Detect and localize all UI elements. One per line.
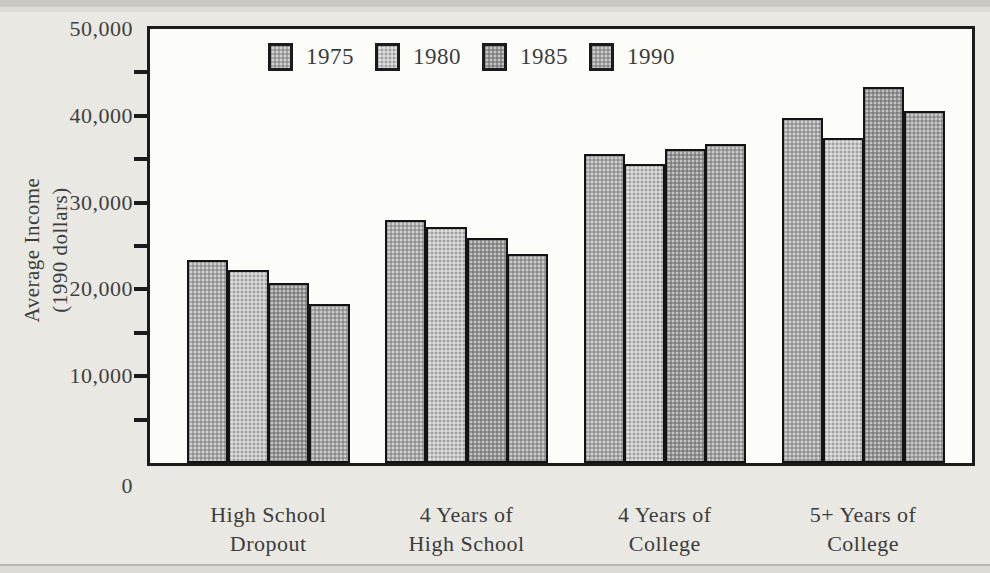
- x-category-label-4: 5+ Years ofCollege: [753, 500, 973, 558]
- legend-item-1975: 1975: [268, 43, 354, 71]
- bar-1975-category-3: [584, 154, 625, 463]
- bar-1980-category-3: [624, 164, 665, 463]
- legend-swatch-1990: [589, 43, 614, 71]
- y-tick-label-10000: 10,000: [0, 363, 133, 389]
- bar-1975-category-1: [187, 260, 228, 463]
- bar-1985-category-3: [665, 149, 706, 463]
- y-axis-title: Average Income (1990 dollars): [18, 140, 74, 360]
- x-category-label-1: High SchoolDropout: [158, 500, 378, 558]
- x-category-label-3-line-2: College: [555, 529, 775, 558]
- y-tick-5000: [134, 418, 147, 422]
- x-category-label-2-line-2: High School: [357, 529, 577, 558]
- bar-1975-category-2: [385, 220, 426, 463]
- y-tick-45000: [134, 70, 147, 74]
- legend-item-1990: 1990: [589, 43, 675, 71]
- y-tick-30000: [134, 201, 147, 205]
- x-category-label-2-line-1: 4 Years of: [357, 500, 577, 529]
- legend-swatch-1980: [375, 43, 400, 71]
- bar-1980-category-2: [426, 227, 467, 463]
- legend-item-1980: 1980: [375, 43, 461, 71]
- bar-1990-category-2: [507, 254, 548, 463]
- y-axis-title-line-2: (1990 dollars): [46, 140, 74, 360]
- legend-label-1975: 1975: [306, 44, 354, 70]
- scan-artifact-top: [0, 0, 990, 7]
- x-category-label-1-line-1: High School: [158, 500, 378, 529]
- bar-1985-category-2: [467, 238, 508, 463]
- y-tick-15000: [134, 331, 147, 335]
- chart-figure: 010,00020,00030,00040,00050,000 19751980…: [0, 0, 990, 573]
- bar-1980-category-1: [228, 270, 269, 463]
- bar-1975-category-4: [782, 118, 823, 463]
- x-category-label-1-line-2: Dropout: [158, 529, 378, 558]
- legend-label-1985: 1985: [520, 44, 568, 70]
- bar-1990-category-1: [309, 304, 350, 463]
- bar-1990-category-4: [904, 111, 945, 463]
- scan-artifact-top-fade: [0, 7, 990, 12]
- y-tick-35000: [134, 157, 147, 161]
- x-category-label-4-line-1: 5+ Years of: [753, 500, 973, 529]
- y-tick-25000: [134, 244, 147, 248]
- legend-swatch-1975: [268, 43, 293, 71]
- legend-swatch-1985: [482, 43, 507, 71]
- y-tick-20000: [134, 287, 147, 291]
- bar-1980-category-4: [823, 138, 864, 463]
- legend: 1975198019851990: [268, 43, 696, 71]
- bar-1985-category-4: [863, 87, 904, 463]
- bar-1985-category-1: [268, 283, 309, 463]
- x-category-label-3-line-1: 4 Years of: [555, 500, 775, 529]
- y-tick-10000: [134, 374, 147, 378]
- bar-1990-category-3: [705, 144, 746, 463]
- y-tick-label-50000: 50,000: [0, 16, 133, 42]
- legend-label-1990: 1990: [627, 44, 675, 70]
- y-tick-label-0: 0: [0, 473, 133, 499]
- x-category-label-4-line-2: College: [753, 529, 973, 558]
- y-tick-label-40000: 40,000: [0, 103, 133, 129]
- legend-item-1985: 1985: [482, 43, 568, 71]
- legend-label-1980: 1980: [413, 44, 461, 70]
- x-category-label-2: 4 Years ofHigh School: [357, 500, 577, 558]
- scan-artifact-bottom: [0, 566, 990, 573]
- y-axis-title-line-1: Average Income: [18, 140, 46, 360]
- y-tick-40000: [134, 114, 147, 118]
- x-category-label-3: 4 Years ofCollege: [555, 500, 775, 558]
